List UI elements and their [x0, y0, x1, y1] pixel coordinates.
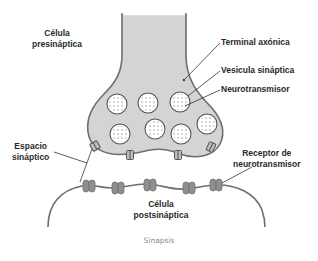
diagram-caption: Sinapsis [0, 236, 318, 245]
postsynaptic-cell-label-line1: Célula [116, 199, 206, 210]
synaptic-cleft-label-line2: sináptico [12, 152, 49, 163]
synaptic-cleft-label: Espacio sináptico [12, 141, 49, 163]
presynaptic-cell-label-line1: Célula [32, 28, 82, 39]
synaptic-cleft-label-line1: Espacio [12, 141, 49, 152]
postsynaptic-cell-label-line2: postsináptica [116, 210, 206, 221]
receptor-label-line2: neurotransmisor [233, 159, 301, 170]
synapse-diagram: Célula presináptica Terminal axónica Ves… [0, 0, 318, 261]
synaptic-vesicle-label: Vesicula sináptica [221, 65, 294, 76]
receptor-label-line1: Receptor de [233, 148, 301, 159]
axon-terminal-label: Terminal axónica [221, 37, 290, 48]
presynaptic-cell-label-line2: presináptica [32, 39, 82, 50]
postsynaptic-cell-label: Célula postsináptica [116, 199, 206, 221]
receptor-label: Receptor de neurotransmisor [233, 148, 301, 170]
presynaptic-cell-label: Célula presináptica [32, 28, 82, 50]
neurotransmitter-label: Neurotransmisor [221, 84, 290, 95]
